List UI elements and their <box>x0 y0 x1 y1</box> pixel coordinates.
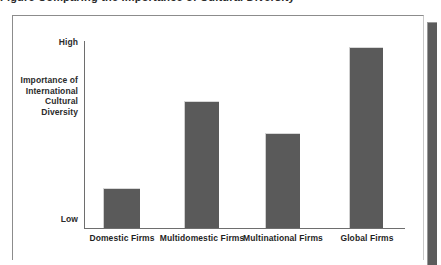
y-axis-tick-low: Low <box>0 214 78 224</box>
x-axis-line <box>84 228 405 229</box>
y-axis-title-line-4: Diversity <box>0 107 78 118</box>
bar-multinational-firms <box>265 133 300 228</box>
x-axis-label-global-firms: Global Firms <box>323 233 411 243</box>
y-axis-title-line-3: Cultural <box>0 96 78 107</box>
y-axis-line <box>84 41 85 229</box>
x-axis-label-multinational-firms: Multinational Firms <box>233 233 333 243</box>
y-axis-title: Importance of International Cultural Div… <box>0 75 78 117</box>
bar-multidomestic-firms <box>184 101 219 228</box>
y-axis-tick-high: High <box>0 37 78 47</box>
y-axis-title-line-1: Importance of <box>0 75 78 86</box>
bar-global-firms <box>349 47 383 228</box>
y-axis-title-line-2: International <box>0 86 78 97</box>
bar-domestic-firms <box>103 188 140 228</box>
page-edge-artifact <box>427 22 437 265</box>
